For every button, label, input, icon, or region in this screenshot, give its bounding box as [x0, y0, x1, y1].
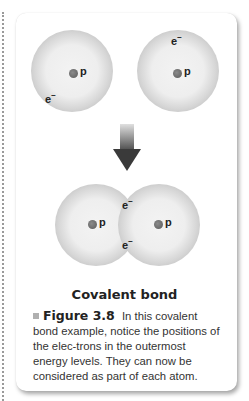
electron-charge: − [177, 33, 182, 42]
proton-label-right: p [184, 65, 191, 77]
bonded-proton-label-left: p [99, 216, 106, 228]
shared-electron-bottom: e− [122, 237, 133, 251]
arrow-shaft [120, 124, 134, 149]
figure-caption: Figure 3.8 In this covalent bond example… [33, 308, 223, 384]
electron-charge: − [128, 197, 133, 206]
figure-number: Figure 3.8 [43, 308, 115, 323]
bonded-nucleus-left [88, 220, 97, 229]
proton-label-left: p [80, 65, 87, 77]
electron-label-left: e− [45, 91, 56, 105]
electron-charge: − [128, 237, 133, 246]
bonded-nucleus-right [154, 220, 163, 229]
electron-charge: − [51, 91, 56, 100]
bonded-proton-label-right: p [165, 216, 172, 228]
margin-dotted-rule [2, 12, 4, 401]
nucleus-right [173, 69, 182, 78]
arrow-down-icon [113, 149, 141, 171]
caption-bullet-icon [33, 313, 39, 319]
electron-label-right: e− [171, 33, 182, 47]
shared-electron-top: e− [122, 197, 133, 211]
nucleus-left [69, 69, 78, 78]
figure-title: Covalent bond [0, 287, 249, 302]
